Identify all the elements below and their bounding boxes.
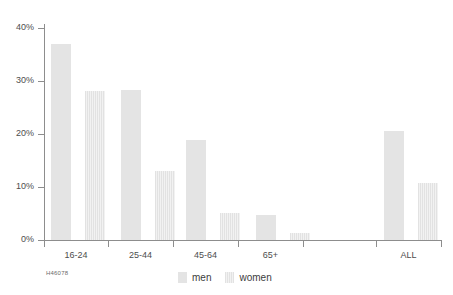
y-axis-label: 40% (0, 23, 34, 32)
x-axis-tick-0 (44, 240, 45, 247)
chart-legend: men women (178, 272, 272, 283)
legend-label-men: men (192, 272, 211, 283)
x-axis-category-label: 45-64 (173, 250, 238, 260)
bar-women-16-24 (85, 91, 105, 240)
y-axis-label: 30% (0, 76, 34, 85)
x-axis-tick-6 (441, 240, 442, 247)
legend-swatch-men-icon (178, 272, 187, 283)
legend-item-women: women (225, 272, 271, 283)
bar-women-65+ (290, 233, 310, 240)
x-axis-category-label: 65+ (238, 250, 303, 260)
legend-label-women: women (239, 272, 271, 283)
bar-men-ALL (384, 131, 404, 240)
x-axis-tick-3 (238, 240, 239, 247)
x-axis-tick-4 (303, 240, 304, 247)
y-tick-40 (38, 28, 45, 29)
bar-women-45-64 (220, 213, 240, 240)
y-tick-10 (38, 187, 45, 188)
y-axis-label: 20% (0, 129, 34, 138)
bar-women-ALL (418, 183, 438, 240)
x-axis-line (44, 240, 441, 241)
y-axis-label: 0% (0, 235, 34, 244)
x-axis-category-label: 16-24 (44, 250, 108, 260)
bar-men-16-24 (51, 44, 71, 240)
bar-chart: 0%10%20%30%40% 16-2425-4445-6465+ALL men… (0, 0, 453, 295)
legend-swatch-women-icon (225, 272, 234, 283)
bar-men-65+ (256, 215, 276, 240)
y-tick-20 (38, 134, 45, 135)
x-axis-category-label: ALL (376, 250, 441, 260)
bar-women-25-44 (155, 171, 175, 240)
footer-reference-code: H46078 (46, 270, 68, 277)
y-axis-line (44, 24, 45, 241)
x-axis-tick-2 (173, 240, 174, 247)
y-tick-30 (38, 81, 45, 82)
x-axis-tick-1 (108, 240, 109, 247)
legend-item-men: men (178, 272, 211, 283)
y-axis-label: 10% (0, 182, 34, 191)
bar-men-25-44 (121, 90, 141, 240)
x-axis-tick-5 (376, 240, 377, 247)
x-axis-category-label: 25-44 (108, 250, 173, 260)
bar-men-45-64 (186, 140, 206, 240)
